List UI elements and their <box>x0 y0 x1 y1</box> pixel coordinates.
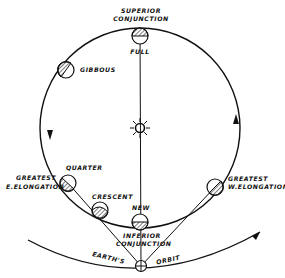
label-inferior: INFERIOR <box>120 232 164 239</box>
orbit-arrow-icon <box>252 232 260 240</box>
label-new: NEW <box>128 204 154 211</box>
planet-crescent <box>92 202 108 219</box>
label-gibbous: GIBBOUS <box>80 66 116 73</box>
label-quarter: QUARTER <box>66 164 103 171</box>
label-w-elongation: W.ELONGATION <box>228 183 285 190</box>
planet-new <box>132 214 148 230</box>
planet-superior-conjunction <box>132 28 148 44</box>
planet-west-elongation <box>207 179 223 195</box>
planet-gibbous <box>57 61 74 78</box>
label-greatest-w: GREATEST <box>228 175 268 182</box>
label-full: FULL <box>125 48 155 55</box>
orbit-arrow-icon <box>47 130 53 140</box>
label-inferior-conjunction: CONJUNCTION <box>116 240 170 247</box>
label-greatest-e: GREATEST <box>16 174 56 181</box>
orbit-arrow-icon <box>233 114 239 124</box>
label-crescent: CRESCENT <box>92 193 133 200</box>
label-conjunction: CONJUNCTION <box>108 15 174 22</box>
label-superior: SUPERIOR <box>112 7 170 14</box>
sight-line-superior <box>140 30 141 266</box>
label-e-elongation: E.ELONGATION <box>6 183 64 190</box>
earth-icon <box>136 261 147 272</box>
